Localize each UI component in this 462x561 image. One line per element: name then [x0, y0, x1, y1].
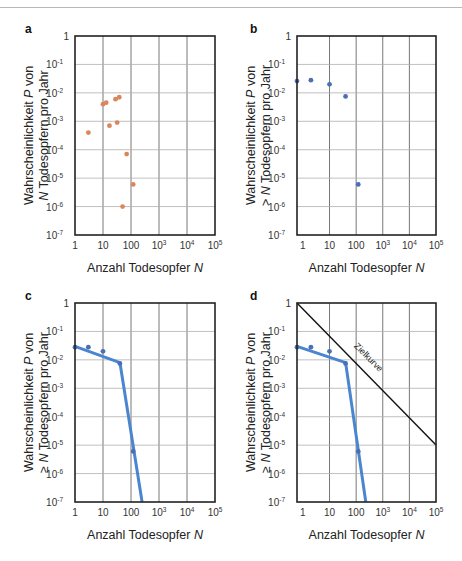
panel-letter-d: d — [250, 289, 257, 303]
data-point — [86, 345, 91, 350]
grid-c — [75, 303, 215, 502]
plot-a — [86, 95, 136, 209]
data-point — [131, 449, 136, 454]
grid-d — [297, 303, 436, 502]
y-axis-title-line2-a: N Todesopfern pro Jahr — [37, 70, 51, 200]
x-tick-label: 100 — [348, 507, 365, 518]
frame-d — [297, 303, 436, 502]
x-tick-label: 104 — [402, 239, 417, 251]
panel-letter-a: a — [25, 22, 32, 36]
y-axis-title-line2-d: ≥ N Todesopfern pro Jahr — [259, 332, 273, 473]
panel-c: c 110100103104105110-110-210-310-410-510… — [22, 289, 223, 542]
x-tick-label: 103 — [375, 506, 390, 518]
y-tick-label: 1 — [285, 31, 291, 42]
x-tick-label: 103 — [152, 506, 167, 518]
x-tick-label: 1 — [300, 240, 306, 251]
data-point — [117, 361, 122, 366]
x-tick-label: 104 — [180, 239, 195, 251]
y-axis-title-line1-d: Wahrscheinlichkeit P von — [244, 333, 258, 472]
data-point — [309, 78, 314, 83]
plot-c — [73, 345, 143, 502]
x-tick-label: 10 — [97, 507, 109, 518]
x-tick-label: 100 — [348, 240, 365, 251]
y-axis-title-a: Wahrscheinlichkeit P von N Todesopfern p… — [22, 66, 51, 205]
data-point — [309, 345, 314, 350]
data-point — [86, 130, 91, 135]
y-tick-label: 1 — [63, 31, 69, 42]
x-axis-title-d: Anzahl Todesopfer N — [309, 528, 426, 542]
x-tick-label: 1 — [72, 507, 78, 518]
fn-curve-line — [297, 346, 366, 502]
data-point — [124, 152, 129, 157]
x-tick-label: 1 — [72, 240, 78, 251]
y-tick-label: 1 — [63, 298, 69, 309]
y-tick-label: 10-6 — [46, 201, 63, 213]
ticks-a: 110100103104105110-110-210-310-410-510-6… — [46, 31, 223, 251]
x-tick-label: 104 — [402, 506, 417, 518]
data-point — [356, 449, 361, 454]
y-axis-title-line1-b: Wahrscheinlichkeit P von — [244, 66, 258, 205]
figure: a 110100103104105110-110-210-310-410-510… — [0, 0, 462, 561]
data-point — [107, 123, 112, 128]
x-axis-title-c: Anzahl Todesopfer N — [87, 528, 204, 542]
data-point — [343, 94, 348, 99]
frame-a — [75, 36, 215, 235]
y-tick-label: 10-1 — [46, 58, 63, 70]
data-point — [120, 204, 125, 209]
data-point — [327, 349, 332, 354]
fn-curve-line — [75, 346, 142, 502]
data-point — [104, 100, 109, 105]
x-tick-label: 100 — [123, 507, 140, 518]
y-axis-title-b: Wahrscheinlichkeit P von > N Todesopfern… — [244, 65, 273, 206]
data-point — [117, 95, 122, 100]
y-tick-label: 10-7 — [268, 229, 285, 241]
y-axis-title-line1-a: Wahrscheinlichkeit P von — [22, 66, 36, 205]
x-tick-label: 103 — [152, 239, 167, 251]
y-axis-title-d: Wahrscheinlichkeit P von ≥ N Todesopfern… — [244, 332, 273, 473]
x-tick-label: 105 — [208, 239, 223, 251]
x-axis-title-a: Anzahl Todesopfer N — [87, 261, 204, 275]
y-tick-label: 1 — [285, 298, 291, 309]
data-point — [101, 349, 106, 354]
x-tick-label: 105 — [429, 506, 444, 518]
y-axis-title-line2-b: > N Todesopfern pro Jahr — [259, 65, 273, 206]
y-tick-label: 10-7 — [268, 496, 285, 508]
x-tick-label: 10 — [324, 507, 336, 518]
y-tick-label: 10-7 — [46, 496, 63, 508]
x-tick-label: 105 — [429, 239, 444, 251]
data-point — [131, 182, 136, 187]
plot-b — [295, 78, 361, 187]
x-tick-label: 1 — [300, 507, 306, 518]
ticks-c: 110100103104105110-110-210-310-410-510-6… — [46, 298, 223, 518]
x-tick-label: 10 — [324, 240, 336, 251]
y-axis-title-line1-c: Wahrscheinlichkeit P von — [22, 333, 36, 472]
panel-b: b 110100103104105110-110-210-310-410-510… — [244, 22, 444, 275]
grid-b — [297, 36, 436, 235]
x-tick-label: 104 — [180, 506, 195, 518]
frame-b — [297, 36, 436, 235]
x-axis-title-b: Anzahl Todesopfer N — [309, 261, 426, 275]
grid-a — [75, 36, 215, 235]
target-curve-line — [297, 303, 436, 445]
x-tick-label: 10 — [97, 240, 109, 251]
panel-d: d 110100103104105110-110-210-310-410-510… — [244, 289, 444, 542]
data-point — [115, 120, 120, 125]
panel-a: a 110100103104105110-110-210-310-410-510… — [22, 22, 223, 275]
y-tick-label: 10-7 — [46, 229, 63, 241]
x-tick-label: 103 — [375, 239, 390, 251]
y-axis-title-c: Wahrscheinlichkeit P von ≥ N Todesopfern… — [22, 332, 51, 473]
frame-c — [75, 303, 215, 502]
x-tick-label: 100 — [123, 240, 140, 251]
target-curve-label: Zielkurve — [352, 341, 385, 374]
panel-letter-b: b — [250, 22, 257, 36]
y-axis-title-line2-c: ≥ N Todesopfern pro Jahr — [37, 332, 51, 473]
data-point — [356, 182, 361, 187]
panel-letter-c: c — [25, 289, 32, 303]
x-tick-label: 105 — [208, 506, 223, 518]
plot-d — [295, 303, 436, 502]
data-point — [343, 361, 348, 366]
data-point — [327, 82, 332, 87]
